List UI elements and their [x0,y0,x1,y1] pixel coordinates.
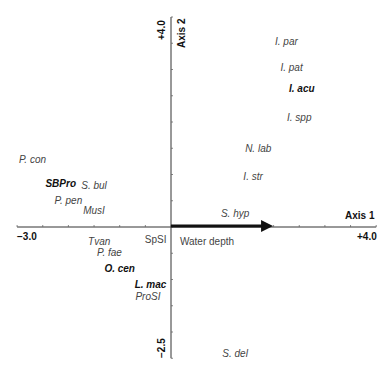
y-max-label: +4.0 [156,20,167,40]
point-label: P. con [19,153,46,164]
point-label: Tvan [88,236,110,247]
point-label: O. cen [104,262,135,273]
point-label: S. hyp [221,207,249,218]
point-label: ProSI [135,291,160,302]
point-label: I. pat [280,61,302,72]
point-label: MusI [83,205,105,216]
arrow-head-icon [261,220,273,232]
water-depth-vector [171,220,273,232]
point-label: S. del [222,348,248,359]
x-max-label: +4.0 [357,231,377,242]
point-label: S. bul [81,180,107,191]
x-min-label: −3.0 [17,231,37,242]
point-label: N. lab [245,143,271,154]
point-label: P. pen [55,194,83,205]
y-min-label: −2.5 [156,338,167,358]
point-label: I. acu [289,82,315,93]
point-label: I. spp [287,111,311,122]
point-label: I. str [243,171,262,182]
point-label: L. mac [135,278,167,289]
y-axis-title: Axis 2 [176,19,187,48]
vector-label-water-depth: Water depth [180,236,234,247]
point-label: SBPro [45,177,76,188]
point-label: I. par [275,35,298,46]
point-label: P. fae [97,247,122,258]
point-label: SpSI [145,233,167,244]
x-axis-title: Axis 1 [345,210,374,221]
